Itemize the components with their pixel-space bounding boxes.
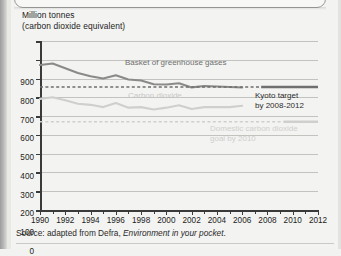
y-tick-label-700: 700 [8,115,34,124]
x-tick-label-1996: 1996 [107,216,125,225]
chart-plot-area: 1990199219941996199820002002200420062008… [40,41,318,210]
y-axis-title-line1: Million tonnes [22,10,75,20]
x-tick-2002 [192,210,193,215]
annotation-basket: Basket of greenhouse gases [125,58,226,68]
x-tick-1996 [116,210,117,215]
annotation-carbon-dioxide: Carbon dioxide [128,91,182,101]
x-tick-label-2006: 2006 [233,216,251,225]
y-tick-label-800: 800 [8,96,34,105]
x-tick-2010 [293,210,294,215]
x-tick-1998 [141,210,142,215]
x-tick-2007 [255,210,256,214]
x-tick-label-1992: 1992 [56,216,74,225]
source-suffix: . [224,228,226,238]
x-tick-2001 [179,210,180,214]
x-tick-label-1990: 1990 [31,216,49,225]
y-tick-label-500: 500 [8,153,34,162]
y-tick-label-0: 0 [8,247,34,256]
x-tick-label-2008: 2008 [258,216,276,225]
page-left-margin-strip [0,0,7,249]
y-axis-title-line2: (carbon dioxide equivalent) [22,21,125,31]
x-tick-2006 [242,210,243,215]
x-tick-2005 [230,210,231,214]
x-tick-1993 [78,210,79,214]
x-tick-1994 [91,210,92,215]
x-tick-label-1998: 1998 [132,216,150,225]
x-tick-2000 [166,210,167,215]
x-tick-1992 [65,210,66,215]
x-tick-2003 [204,210,205,214]
source-prefix: Source: adapted from Defra, [16,228,123,238]
x-tick-label-2000: 2000 [157,216,175,225]
x-tick-1990 [40,210,41,215]
x-tick-label-2004: 2004 [208,216,226,225]
x-tick-2012 [318,210,319,215]
x-tick-label-2010: 2010 [284,216,302,225]
annotation-domestic-goal: Domestic carbon dioxide goal by 2010 [210,124,298,143]
y-tick-label-600: 600 [8,134,34,143]
x-tick-1991 [53,210,54,214]
y-axis-title: Million tonnes (carbon dioxide equivalen… [22,10,125,31]
x-tick-1995 [103,210,104,214]
x-tick-2004 [217,210,218,215]
x-tick-1999 [154,210,155,214]
bottom-divider-rule [16,243,334,244]
x-tick-label-1994: 1994 [81,216,99,225]
x-tick-2008 [267,210,268,215]
y-tick-label-900: 900 [8,78,34,87]
annotation-kyoto-target: Kyoto target by 2008-2012 [255,91,304,110]
source-publication-title: Environment in your pocket [123,228,224,238]
y-tick-label-300: 300 [8,190,34,199]
x-tick-label-2002: 2002 [183,216,201,225]
x-tick-1997 [128,210,129,214]
x-tick-label-2012: 2012 [309,216,327,225]
x-tick-2011 [305,210,306,214]
y-tick-label-400: 400 [8,171,34,180]
x-tick-2009 [280,210,281,214]
source-caption: Source: adapted from Defra, Environment … [16,228,226,238]
